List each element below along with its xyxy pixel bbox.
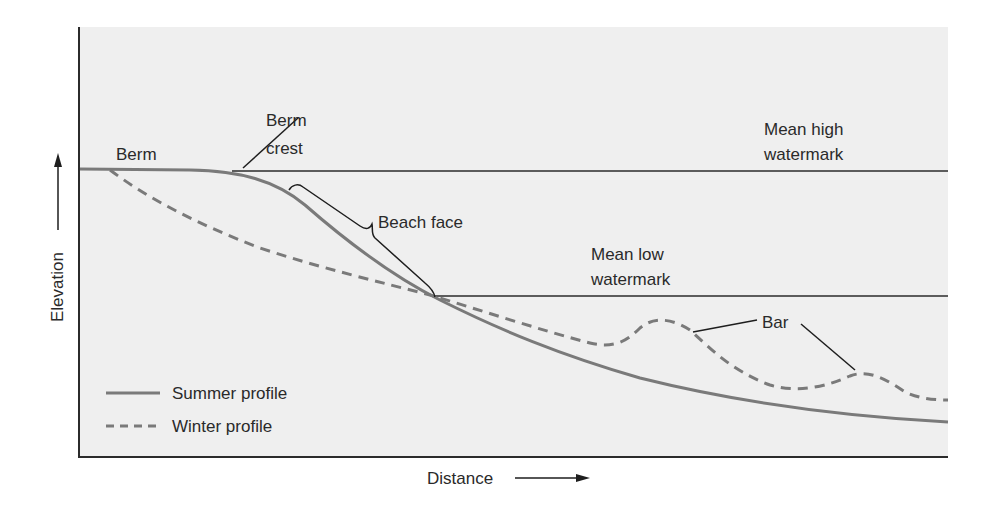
- x-axis-title: Distance: [427, 469, 590, 488]
- beach-profile-diagram: Berm Berm crest Beach face Mean high wat…: [0, 0, 992, 511]
- elevation-label: Elevation: [48, 252, 67, 322]
- berm-crest-label-line1: Berm: [266, 111, 307, 130]
- y-axis-title: Elevation: [48, 153, 67, 322]
- bar-label: Bar: [762, 313, 789, 332]
- berm-label: Berm: [116, 145, 157, 164]
- legend-winter-label: Winter profile: [172, 417, 272, 436]
- berm-crest-label-line2: crest: [266, 139, 303, 158]
- mean-low-watermark-label-line1: Mean low: [591, 245, 664, 264]
- distance-label: Distance: [427, 469, 493, 488]
- mean-low-watermark-label-line2: watermark: [590, 270, 671, 289]
- mean-high-watermark-label-line1: Mean high: [764, 120, 843, 139]
- elevation-arrow-icon: [54, 153, 62, 167]
- beach-face-label: Beach face: [378, 213, 463, 232]
- mean-high-watermark-label-line2: watermark: [763, 145, 844, 164]
- distance-arrow-icon: [576, 474, 590, 482]
- legend-summer-label: Summer profile: [172, 384, 287, 403]
